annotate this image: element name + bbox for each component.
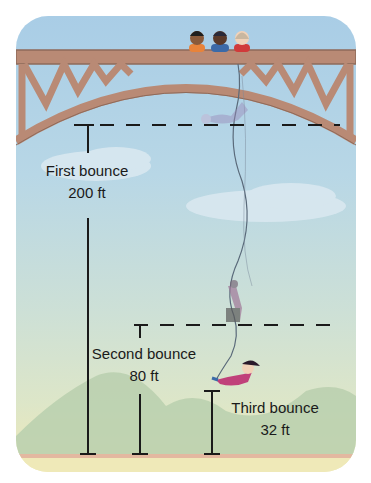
- people-on-bridge: [189, 31, 250, 52]
- person-icon: [189, 31, 205, 52]
- second-bounce-height: 80 ft: [88, 365, 200, 387]
- jumper-first-icon: [201, 102, 248, 124]
- jumper-second-icon: [226, 280, 242, 322]
- ground: [16, 456, 356, 472]
- third-bounce-label: Third bounce 32 ft: [220, 397, 330, 441]
- second-bounce-name: Second bounce: [88, 343, 200, 365]
- ground-line: [16, 454, 356, 458]
- first-bounce-label: First bounce 200 ft: [22, 160, 152, 204]
- first-bounce-height: 200 ft: [22, 182, 152, 204]
- bungee-scene: First bounce 200 ft Second bounce 80 ft …: [16, 16, 356, 472]
- first-bounce-name: First bounce: [22, 160, 152, 182]
- second-bounce-label: Second bounce 80 ft: [88, 343, 200, 387]
- jumper-third-icon: [212, 360, 260, 385]
- person-icon: [234, 31, 250, 52]
- bridge: [16, 50, 356, 145]
- third-bounce-name: Third bounce: [220, 397, 330, 419]
- third-bounce-height: 32 ft: [220, 419, 330, 441]
- person-icon: [211, 31, 229, 52]
